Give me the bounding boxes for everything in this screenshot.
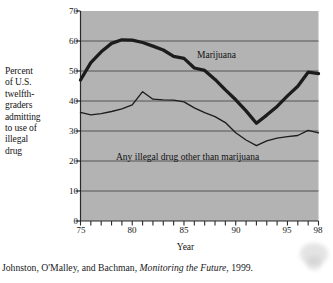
x-tick-label: 98	[307, 226, 329, 235]
x-tick-label: 80	[121, 226, 143, 235]
x-tick-label: 90	[225, 226, 247, 235]
x-tick-label: 75	[70, 226, 92, 235]
x-axis-title-text: Year	[177, 242, 195, 252]
x-tick-label: 85	[173, 226, 195, 235]
series-annotation-marijuana: Marijuana	[197, 50, 236, 60]
x-axis-title: Year	[0, 242, 333, 252]
x-axis-tick-labels: 75 80 85 90 95 98	[0, 0, 333, 283]
x-tick-label: 95	[276, 226, 298, 235]
chart-figure: Percent of U.S. twelfth- graders admitti…	[0, 0, 333, 283]
source-caption: Johnston, O'Malley, and Bachman, Monitor…	[2, 262, 333, 274]
caption-suffix: , 1999.	[226, 262, 253, 273]
caption-title: Monitoring the Future	[140, 262, 227, 273]
caption-prefix: Johnston, O'Malley, and Bachman,	[2, 262, 140, 273]
series-annotation-other-drugs: Any illegal drug other than marijuana	[116, 152, 259, 162]
